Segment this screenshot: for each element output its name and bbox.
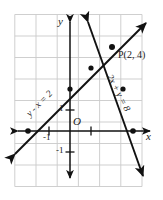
point-line1-x-int <box>25 128 31 134</box>
y-tick-label-1: 1 <box>59 104 64 113</box>
y-tick-label-neg-1: -1 <box>56 146 64 155</box>
line-y-minus-x-equals-2 <box>15 23 146 154</box>
point-P-label: P(2, 4) <box>118 50 145 60</box>
graph-figure: y x O 1 -1 -1 P(2, 4) y - x = 2 2x + y =… <box>0 0 163 200</box>
y-axis-label: y <box>58 16 63 27</box>
point-line1-0-2 <box>67 86 72 91</box>
origin-label: O <box>73 116 81 127</box>
x-axis-label: x <box>146 131 151 142</box>
x-tick-label-neg-1: -1 <box>43 133 51 142</box>
point-intersection-P <box>109 44 115 50</box>
coordinate-plane-svg <box>0 0 163 200</box>
point-line1-1-3 <box>88 65 93 70</box>
point-line2-x-int <box>130 128 136 134</box>
